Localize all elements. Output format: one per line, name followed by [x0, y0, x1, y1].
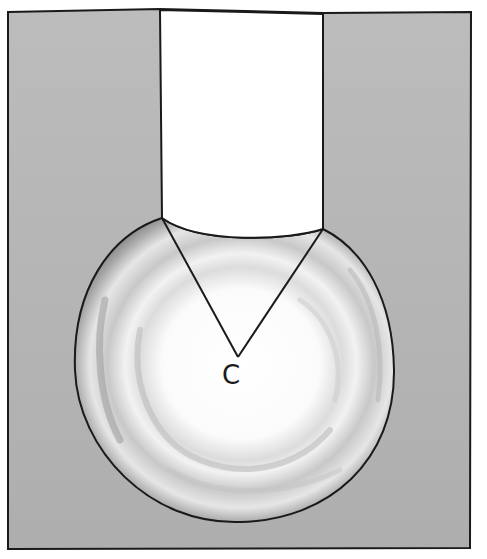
center-label: C — [222, 360, 240, 390]
illustration: C — [0, 0, 487, 559]
opening — [160, 10, 323, 238]
bottom-margin — [0, 550, 487, 559]
